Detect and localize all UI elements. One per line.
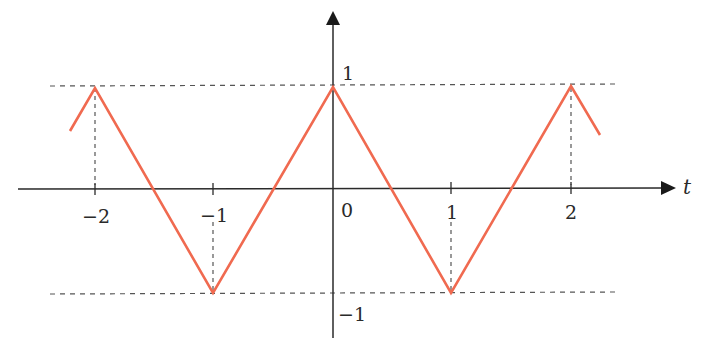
y-axis-arrow-icon (326, 11, 340, 25)
tick-label-x-2: 2 (565, 201, 577, 223)
triangle-wave-chart: −2 −1 0 1 2 1 −1 t (0, 0, 702, 349)
tick-label-x-minus-1: −1 (200, 204, 228, 226)
x-axis-label: t (683, 175, 692, 199)
tick-label-origin: 0 (341, 199, 353, 221)
x-axis-arrow-icon (661, 181, 676, 195)
x-axis (18, 188, 662, 189)
tick-label-x-minus-2: −2 (82, 205, 110, 227)
tick-label-y-minus-1: −1 (338, 303, 366, 325)
tick-label-x-1: 1 (446, 201, 458, 223)
tick-label-y-1: 1 (342, 62, 354, 84)
